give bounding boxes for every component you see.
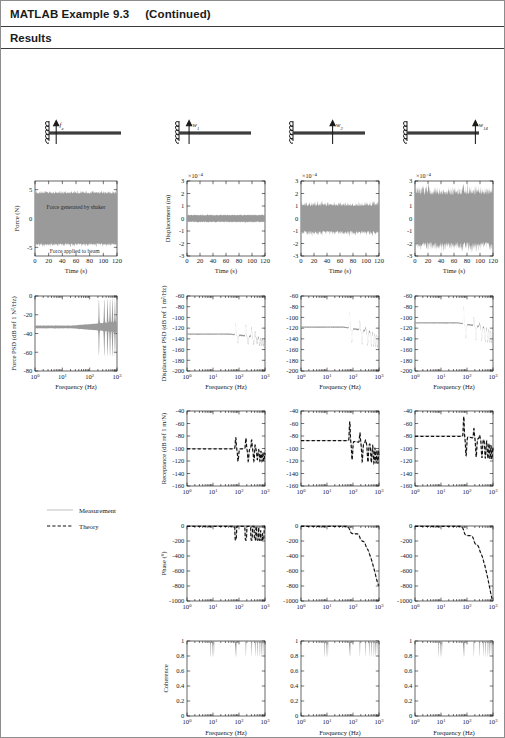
force-time-annotation-1: Force applied to beam	[50, 248, 101, 254]
x-tick-label: 100	[183, 603, 193, 611]
x-tick-label: 100	[31, 373, 41, 381]
beam-sketch-force: fe	[60, 121, 64, 131]
y-tick-label: 0.2	[290, 697, 298, 704]
y-tick-label: -40	[404, 407, 413, 414]
receptance-theory-col3	[415, 417, 493, 460]
x-tick-label: 102	[85, 373, 95, 381]
y-tick-label: -140	[400, 335, 413, 342]
y-tick-label: -3	[293, 252, 299, 259]
displacement-time-trace-col3	[415, 183, 493, 254]
y-tick-label: -60	[290, 420, 299, 427]
y-tick-label: 0.4	[404, 682, 413, 689]
x-tick-label: 0	[413, 257, 417, 264]
force-time-ylabel: Force (N)	[13, 206, 21, 232]
phase-axes-col3	[415, 526, 493, 601]
legend-measurement-label: Measurement	[79, 507, 116, 514]
displacement-psd-axes-col2	[301, 296, 379, 371]
x-tick-label: 0	[185, 257, 189, 264]
x-tick-label: 20	[197, 257, 204, 264]
results-heading-bar: Results	[1, 27, 504, 49]
displacement-time-exponent-col2: ×10⁻⁴	[302, 172, 317, 179]
y-tick-label: -180	[286, 357, 299, 364]
y-tick-label: -1	[293, 227, 299, 234]
y-tick-label: -40	[290, 407, 299, 414]
y-tick-label: 0.2	[176, 697, 184, 704]
phase-theory-col1	[187, 526, 265, 540]
y-tick-label: -20	[24, 311, 33, 318]
y-tick-label: -40	[24, 330, 33, 337]
y-tick-label: -80	[404, 432, 413, 439]
y-tick-label: -60	[290, 292, 299, 299]
continued-label: (Continued)	[145, 8, 211, 20]
coherence-ylabel: Coherence	[162, 664, 169, 692]
y-tick-label: -100	[286, 314, 299, 321]
displacement-time-exponent-col1: ×10⁻⁴	[188, 172, 203, 179]
x-tick-label: 102	[235, 373, 245, 381]
coherence-axes-col2	[301, 641, 379, 716]
x-tick-label: 100	[247, 257, 258, 264]
y-tick-label: 3	[409, 177, 413, 184]
displacement-time-xlabel-col1: Time (s)	[215, 267, 237, 275]
y-tick-label: -80	[176, 432, 185, 439]
x-tick-label: 101	[437, 603, 447, 611]
x-tick-label: 102	[463, 603, 473, 611]
coherence-trace-col1	[187, 641, 265, 658]
x-tick-label: 100	[183, 488, 193, 496]
figure-page: MATLAB Example 9.3 (Continued) Results f…	[0, 0, 505, 738]
y-tick-label: 0	[181, 215, 185, 222]
x-tick-label: 60	[73, 257, 80, 264]
y-tick-label: 0.4	[290, 682, 299, 689]
displacement-time-ylabel: Displacement (m)	[164, 195, 172, 242]
y-tick-label: 0.4	[176, 682, 185, 689]
x-tick-label: 100	[297, 718, 307, 726]
force-arrow-head	[54, 121, 59, 126]
beam-bar	[293, 131, 365, 134]
y-tick-label: 0.6	[404, 667, 413, 674]
y-tick-label: -3	[407, 252, 413, 259]
x-tick-label: 0	[33, 257, 37, 264]
phase-theory-col3	[415, 526, 493, 600]
x-tick-label: 80	[86, 257, 93, 264]
y-tick-label: -100	[400, 445, 413, 452]
y-tick-label: 0	[181, 522, 185, 529]
y-tick-label: 0.8	[290, 652, 299, 659]
y-tick-label: -140	[172, 335, 185, 342]
y-tick-label: -100	[172, 445, 185, 452]
displacement-time-xlabel-col2: Time (s)	[329, 267, 351, 275]
x-tick-label: 40	[324, 257, 331, 264]
x-tick-label: 101	[209, 718, 219, 726]
x-tick-label: 20	[45, 257, 52, 264]
y-tick-label: 0	[29, 215, 33, 222]
x-tick-label: 103	[261, 488, 271, 496]
receptance-measurement-col2	[301, 421, 379, 463]
displacement-time-trace-col2	[301, 200, 379, 237]
force-time-trace	[35, 190, 117, 248]
displacement-time-trace-col1	[187, 214, 265, 223]
y-tick-label: -2	[179, 240, 185, 247]
y-tick-label: -800	[172, 582, 185, 589]
x-tick-label: 101	[209, 603, 219, 611]
force-arrow-head	[473, 121, 478, 126]
x-tick-label: 101	[209, 488, 219, 496]
phase-axes-col1	[187, 526, 265, 601]
x-tick-label: 100	[183, 373, 193, 381]
coherence-trace-col2	[301, 641, 379, 658]
y-tick-label: -80	[290, 432, 299, 439]
y-tick-label: -400	[286, 552, 299, 559]
x-tick-label: 103	[489, 718, 499, 726]
force-psd-xlabel: Frequency (Hz)	[55, 383, 97, 391]
y-tick-label: 1	[409, 637, 412, 644]
x-tick-label: 103	[489, 373, 499, 381]
y-tick-label: 1	[295, 202, 298, 209]
y-tick-label: -200	[400, 537, 413, 544]
y-tick-label: 0.2	[404, 697, 412, 704]
displacement-time-exponent-col3: ×10⁻⁴	[416, 172, 431, 179]
y-tick-label: 2	[295, 190, 298, 197]
y-tick-label: -600	[400, 567, 413, 574]
x-tick-label: 102	[349, 373, 359, 381]
y-tick-label: -800	[400, 582, 413, 589]
x-tick-label: 103	[113, 373, 123, 381]
x-tick-label: 102	[235, 603, 245, 611]
x-tick-label: 100	[183, 718, 193, 726]
x-tick-label: 102	[235, 718, 245, 726]
